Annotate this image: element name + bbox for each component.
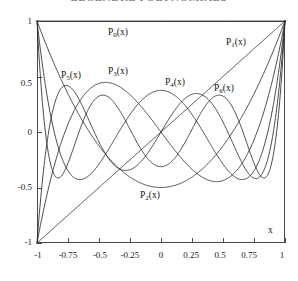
curve-label-p6: P6(x) (214, 83, 234, 95)
curve-label-p0: P0(x) (108, 27, 128, 39)
xtick-label-0: 0 (150, 250, 172, 260)
xtick-label-neg-0-25: -0.25 (114, 250, 146, 260)
xtick-label-neg-0-5: -0.5 (85, 250, 115, 260)
xtick-label-neg-1: -1 (27, 250, 49, 260)
curve-label-p1-tail: (x) (235, 37, 246, 47)
xtick-label-neg-0-75: -0.75 (52, 250, 84, 260)
curve-label-p2: P2(x) (140, 190, 160, 202)
curve-label-p5: P5(x) (61, 70, 81, 82)
xtick-label-1: 1 (274, 250, 290, 260)
curve-label-p4: P4(x) (165, 77, 185, 89)
ytick-label-0-5: 0.5 (8, 78, 32, 88)
curve-label-p2-tail: (x) (149, 190, 160, 200)
curve-label-p3-tail: (x) (117, 66, 128, 76)
ytick-label-neg-0-5: -0.5 (4, 182, 32, 192)
curve-label-p4-tail: (x) (174, 77, 185, 87)
curve-label-p3: P3(x) (108, 66, 128, 78)
curve-p2x (37, 21, 285, 188)
legendre-polynomials-figure: LEGENDRE POLYNOMIALS 1 0.5 0 -0.5 -1 -1 … (0, 0, 298, 281)
curve-label-p0-tail: (x) (117, 27, 128, 37)
ytick-label-neg-1: -1 (8, 237, 32, 247)
curve-label-p5-tail: (x) (70, 70, 81, 80)
curve-p6x (37, 21, 285, 178)
x-axis-label: x (268, 225, 273, 235)
ytick-label-0: 0 (12, 127, 32, 137)
ytick-label-1: 1 (12, 16, 32, 26)
curve-label-p1: P1(x) (226, 37, 246, 49)
curve-p4x (37, 21, 285, 180)
xtick-label-0-25: 0.25 (176, 250, 206, 260)
plot-canvas (0, 0, 298, 281)
curve-label-p6-tail: (x) (223, 83, 234, 93)
xtick-label-0-75: 0.75 (234, 250, 264, 260)
xtick-label-0-5: 0.5 (207, 250, 233, 260)
